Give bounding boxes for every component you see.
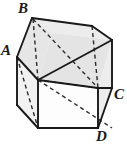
geometry-figure: A B C D — [0, 0, 127, 145]
vertex-label-b: B — [18, 1, 28, 16]
vertex-label-a: A — [1, 43, 11, 58]
vertex-label-c: C — [114, 87, 124, 102]
solid-shape-svg — [0, 0, 127, 145]
vertex-label-d: D — [96, 129, 107, 144]
